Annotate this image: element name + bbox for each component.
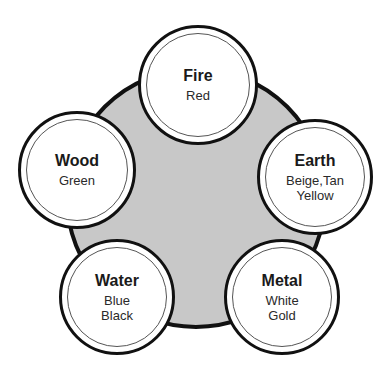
element-color: Green bbox=[21, 173, 133, 188]
element-name: Wood bbox=[21, 152, 133, 170]
element-name: Earth bbox=[260, 152, 370, 170]
element-color: Black bbox=[62, 308, 172, 323]
node-text: Water Blue Black bbox=[62, 272, 172, 323]
element-name: Metal bbox=[227, 272, 337, 290]
element-color: Yellow bbox=[260, 188, 370, 203]
node-text: Wood Green bbox=[21, 152, 133, 188]
element-node-earth: Earth Beige,Tan Yellow bbox=[257, 119, 373, 235]
element-color: Blue bbox=[62, 293, 172, 308]
element-name: Fire bbox=[141, 67, 255, 85]
element-node-wood: Wood Green bbox=[18, 111, 136, 229]
element-color: Gold bbox=[227, 308, 337, 323]
element-node-fire: Fire Red bbox=[138, 25, 258, 145]
node-text: Earth Beige,Tan Yellow bbox=[260, 152, 370, 203]
element-color: Beige,Tan bbox=[260, 173, 370, 188]
node-text: Fire Red bbox=[141, 67, 255, 103]
five-elements-diagram: Fire Red Earth Beige,Tan Yellow Metal Wh… bbox=[0, 0, 392, 374]
node-text: Metal White Gold bbox=[227, 272, 337, 323]
element-node-metal: Metal White Gold bbox=[224, 239, 340, 355]
element-node-water: Water Blue Black bbox=[59, 239, 175, 355]
element-name: Water bbox=[62, 272, 172, 290]
element-color: Red bbox=[141, 88, 255, 103]
element-color: White bbox=[227, 293, 337, 308]
